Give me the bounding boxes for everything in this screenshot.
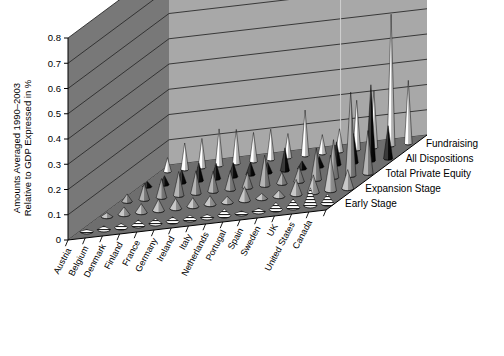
- y-axis-title: Amounts Averaged 1990–2003Relative to GD…: [11, 79, 33, 216]
- y-tick-label: 0.2: [48, 184, 61, 195]
- y-tick-label: 0.3: [48, 159, 61, 170]
- series-label-early-stage: Early Stage: [345, 198, 397, 209]
- y-tick-label: 0.4: [48, 133, 61, 144]
- y-tick-label: 0.6: [48, 83, 61, 94]
- y-tick-label: 0.5: [48, 108, 61, 119]
- series-label-fundraising: Fundraising: [426, 138, 478, 149]
- series-label-total-private-equity: Total Private Equity: [386, 168, 472, 179]
- series-label-expansion-stage: Expansion Stage: [365, 183, 441, 194]
- chart-3d-cone-plot: 00.10.20.30.40.50.60.70.8 AustriaBelgium…: [0, 0, 504, 356]
- y-axis-title-line-2: Relative to GDP Expressed in %: [22, 79, 33, 216]
- y-tick-label: 0: [56, 234, 61, 245]
- y-axis-title-line-1: Amounts Averaged 1990–2003: [11, 83, 22, 213]
- y-tick-label: 0.7: [48, 58, 61, 69]
- chart-canvas: 00.10.20.30.40.50.60.70.8 AustriaBelgium…: [0, 0, 504, 356]
- series-label-all-dispositions: All Dispositions: [406, 153, 474, 164]
- y-tick-label: 0.8: [48, 32, 61, 43]
- y-tick-label: 0.1: [48, 209, 61, 220]
